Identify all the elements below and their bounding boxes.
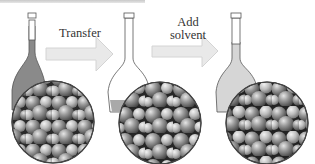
transfer-label: Transfer [50, 27, 110, 40]
transfer-arrow [46, 37, 113, 71]
add-solvent-line-2: solvent [160, 29, 216, 42]
molecular-view-1 [12, 81, 94, 163]
add-solvent-label: Add solvent [160, 16, 216, 42]
diagram-graphics [0, 0, 315, 164]
molecular-view-3 [226, 82, 308, 164]
solution-dilution-diagram: Transfer Add solvent [0, 0, 315, 164]
molecular-view-2 [119, 82, 201, 164]
